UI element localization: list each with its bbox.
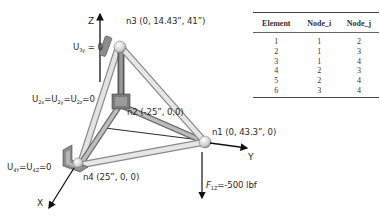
force-label: F1Z=-500 lbf <box>206 180 257 191</box>
element-table: Element Node_i Node_j 112 213 314 423 52… <box>253 12 379 98</box>
table-row: 314 <box>253 57 379 67</box>
table-row: 524 <box>253 76 379 86</box>
node-n2-label: n2 (-25”, 0,0) <box>127 107 184 117</box>
y-axis <box>210 143 247 148</box>
x-axis-label: X <box>37 198 43 208</box>
table-row: 213 <box>253 47 379 57</box>
header-element: Element <box>253 13 300 33</box>
y-axis-label: Y <box>248 152 254 162</box>
table-row: 634 <box>253 86 379 97</box>
node-n3 <box>114 41 126 53</box>
constraint-n4: U4Y=U4Z=0 <box>7 162 51 173</box>
x-axis <box>49 168 74 208</box>
constraint-n2: U2x=U2y=U2z=0 <box>32 94 95 105</box>
node-n1 <box>199 136 211 148</box>
constraint-n3: U3y = 0 <box>73 42 103 53</box>
node-n4-label: n4 (25”, 0, 0) <box>83 172 139 182</box>
header-node-j: Node_j <box>339 13 379 33</box>
table-row: 112 <box>253 33 379 47</box>
z-axis-label: Z <box>88 16 94 26</box>
node-n4 <box>73 158 83 168</box>
node-n3-label: n3 (0, 14.43”, 41”) <box>126 16 205 26</box>
node-n1-label: n1 (0, 43.3”, 0) <box>212 127 276 137</box>
header-node-i: Node_i <box>300 13 339 33</box>
table-row: 423 <box>253 66 379 76</box>
